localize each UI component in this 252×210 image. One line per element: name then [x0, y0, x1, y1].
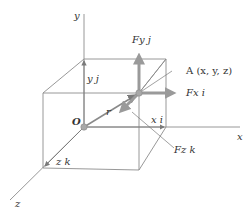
force-fz-label: Fz k: [174, 145, 195, 155]
position-vector-label: r: [106, 107, 111, 117]
force-fx-label: Fx i: [186, 88, 205, 98]
force-fy-label: Fy j: [132, 35, 151, 45]
point-a-label: A (x, y, z): [186, 66, 232, 76]
y-axis-label: y: [74, 11, 80, 21]
z-component-label: z k: [56, 157, 71, 167]
y-component-label: y j: [87, 74, 99, 84]
diagram-canvas: [0, 0, 252, 210]
origin-label: O: [72, 117, 81, 127]
label-a-leader: [142, 71, 172, 91]
vector-components-diagram: y x z O A (x, y, z) r y j x i z k Fy j F…: [0, 0, 252, 210]
z-axis-label: z: [15, 199, 20, 209]
x-component-label: x i: [151, 115, 163, 125]
point-a-sphere: [136, 90, 142, 96]
origin-sphere: [81, 124, 87, 130]
x-axis-label: x: [237, 132, 243, 142]
